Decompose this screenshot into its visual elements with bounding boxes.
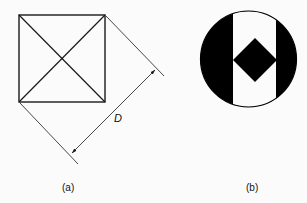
figure-a: D (a) [19, 15, 164, 193]
extension-line-top [106, 16, 164, 76]
caption-a: (a) [62, 182, 74, 193]
diagram-canvas: D (a) (b) [0, 0, 307, 203]
caption-b: (b) [246, 182, 258, 193]
extension-line-bottom [20, 103, 78, 164]
figure-b: (b) [201, 0, 297, 193]
dimension-label: D [114, 112, 122, 124]
